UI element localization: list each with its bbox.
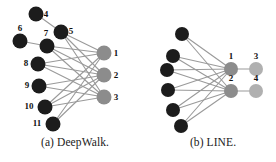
node-circle[interactable] xyxy=(161,83,175,97)
node-label: 2 xyxy=(229,73,234,83)
deepwalk-graph: 4567891011123 xyxy=(0,0,150,136)
node-circle[interactable] xyxy=(29,7,44,22)
line-graph: 1234 xyxy=(150,0,276,136)
graph-node[interactable]: 10 xyxy=(25,100,53,115)
graph-node[interactable] xyxy=(161,83,175,97)
node-circle[interactable] xyxy=(160,63,174,77)
graph-node[interactable]: 3 xyxy=(97,90,119,105)
node-circle[interactable] xyxy=(249,84,263,98)
node-circle[interactable] xyxy=(54,25,69,40)
graph-node[interactable] xyxy=(160,63,174,77)
graph-node[interactable]: 1 xyxy=(97,46,119,61)
node-label: 7 xyxy=(44,28,49,38)
node-label: 9 xyxy=(25,80,30,90)
graph-node[interactable] xyxy=(175,27,189,41)
node-circle[interactable] xyxy=(97,68,112,83)
node-circle[interactable] xyxy=(175,27,189,41)
node-circle[interactable] xyxy=(13,34,28,49)
graph-edge xyxy=(173,91,231,110)
node-label: 2 xyxy=(114,70,119,80)
node-label: 1 xyxy=(114,48,119,58)
node-label: 10 xyxy=(25,101,35,111)
node-circle[interactable] xyxy=(174,119,188,133)
graph-edge xyxy=(53,53,104,124)
node-circle[interactable] xyxy=(97,90,112,105)
node-label: 4 xyxy=(44,9,49,19)
node-circle[interactable] xyxy=(166,49,180,63)
node-circle[interactable] xyxy=(46,117,61,132)
node-layer: 1234 xyxy=(160,27,263,133)
graph-node[interactable]: 4 xyxy=(249,73,263,98)
caption-deepwalk: (a) DeepWalk. xyxy=(0,136,150,148)
node-label: 3 xyxy=(114,92,119,102)
node-label: 3 xyxy=(254,51,259,61)
caption-line: (b) LINE. xyxy=(150,136,276,148)
graph-node[interactable]: 9 xyxy=(25,79,47,94)
node-label: 11 xyxy=(33,118,42,128)
graph-node[interactable]: 8 xyxy=(24,57,46,72)
panel-line: 1234 (b) LINE. xyxy=(150,0,276,162)
graph-edge xyxy=(181,91,231,126)
graph-node[interactable]: 4 xyxy=(29,7,49,22)
graph-node[interactable]: 7 xyxy=(40,28,55,54)
node-circle[interactable] xyxy=(224,84,238,98)
node-circle[interactable] xyxy=(38,100,53,115)
graph-node[interactable]: 2 xyxy=(97,68,119,83)
node-label: 4 xyxy=(254,73,259,83)
figure-container: 4567891011123 (a) DeepWalk. 1234 (b) LIN… xyxy=(0,0,276,162)
graph-node[interactable] xyxy=(174,119,188,133)
graph-node[interactable] xyxy=(166,49,180,63)
graph-edge xyxy=(167,69,231,70)
node-circle[interactable] xyxy=(31,57,46,72)
node-label: 5 xyxy=(69,26,74,36)
node-label: 1 xyxy=(229,51,234,61)
node-circle[interactable] xyxy=(40,39,55,54)
node-label: 8 xyxy=(24,58,29,68)
node-circle[interactable] xyxy=(32,79,47,94)
node-circle[interactable] xyxy=(97,46,112,61)
graph-node[interactable] xyxy=(166,103,180,117)
node-circle[interactable] xyxy=(166,103,180,117)
edge-layer xyxy=(167,34,256,126)
node-label: 6 xyxy=(18,23,23,33)
graph-node[interactable]: 6 xyxy=(13,23,28,49)
panel-deepwalk: 4567891011123 (a) DeepWalk. xyxy=(0,0,150,162)
graph-node[interactable]: 11 xyxy=(33,117,61,132)
